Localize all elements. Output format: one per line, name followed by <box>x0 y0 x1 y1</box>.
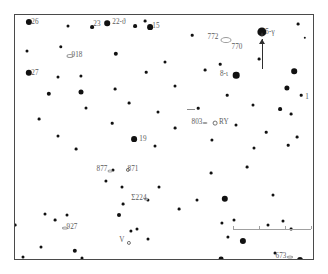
star-label: 19 <box>139 136 146 143</box>
star-marker <box>253 147 256 150</box>
star-marker <box>222 196 228 202</box>
star-marker <box>282 220 285 223</box>
deep-sky-object-marker <box>203 122 208 124</box>
star-marker <box>104 20 110 26</box>
star-label: 927 <box>66 224 77 231</box>
star-marker <box>136 228 139 231</box>
star-marker <box>252 104 255 107</box>
star-marker <box>233 219 236 222</box>
star-marker <box>26 50 29 53</box>
star-marker <box>57 135 60 138</box>
star-marker <box>147 238 150 241</box>
star-marker <box>265 131 268 134</box>
star-marker <box>111 122 114 125</box>
star-marker <box>85 107 88 110</box>
star-marker <box>290 113 293 116</box>
gamma-arrow-head <box>259 39 265 44</box>
star-marker <box>196 199 199 202</box>
star-marker <box>133 24 137 28</box>
star-marker <box>131 136 137 142</box>
star-marker <box>233 72 240 79</box>
star-marker <box>129 229 132 232</box>
star-marker <box>291 68 297 74</box>
star-marker <box>258 58 261 61</box>
star-chart: 262322-ϑ157727705-γ918278-ι1803RY1987787… <box>0 0 328 274</box>
star-marker <box>297 23 300 26</box>
star-marker <box>79 74 82 77</box>
star-label: 8-ι <box>220 71 228 78</box>
deep-sky-object-marker <box>221 37 232 43</box>
star-marker <box>54 219 57 222</box>
scale-bar-tick <box>285 226 286 229</box>
scale-bar-tick <box>311 226 312 229</box>
star-label: 772 <box>207 34 218 41</box>
star-marker <box>67 25 70 28</box>
star-label: 918 <box>71 52 82 59</box>
star-marker <box>191 34 194 37</box>
star-label: 770 <box>231 44 242 51</box>
star-marker <box>226 94 229 97</box>
star-marker <box>210 138 213 141</box>
star-marker <box>278 107 282 111</box>
scale-bar-tick <box>259 226 260 229</box>
star-label: 27 <box>31 70 38 77</box>
star-marker <box>219 257 224 260</box>
star-marker <box>157 111 160 114</box>
star-marker <box>284 85 289 90</box>
star-marker <box>220 221 223 224</box>
open-star-marker <box>127 241 131 245</box>
star-marker <box>38 118 41 121</box>
star-marker <box>59 45 62 48</box>
star-marker <box>144 20 147 23</box>
star-marker <box>287 144 290 147</box>
scale-bar-tick <box>233 226 234 229</box>
star-label: 877 <box>96 166 107 173</box>
star-marker <box>73 249 77 253</box>
star-marker <box>66 214 69 217</box>
star-label: 803 <box>191 119 202 126</box>
star-label: 22-ϑ <box>112 19 126 26</box>
star-label: 871 <box>127 166 138 173</box>
star-marker <box>178 208 181 211</box>
star-marker <box>164 61 167 64</box>
star-marker <box>117 213 121 217</box>
star-label: RY <box>219 119 229 126</box>
star-label: 5-γ <box>265 29 274 36</box>
star-marker <box>174 85 177 88</box>
star-marker <box>300 94 303 97</box>
star-marker <box>304 37 306 39</box>
open-star-marker <box>213 121 218 126</box>
star-marker <box>79 90 84 95</box>
star-marker <box>226 235 229 238</box>
star-marker <box>240 238 246 244</box>
star-marker <box>81 257 84 260</box>
star-marker <box>235 124 238 127</box>
star-marker <box>114 88 117 91</box>
star-marker <box>219 63 222 66</box>
star-label: Σ224 <box>131 195 146 202</box>
star-marker <box>297 257 303 260</box>
star-marker <box>122 203 125 206</box>
chart-field: 262322-ϑ157727705-γ918278-ι1803RY1987787… <box>14 14 314 260</box>
leader-line-803-to-ry <box>187 109 195 110</box>
star-marker <box>14 224 16 227</box>
scale-bar <box>233 229 311 230</box>
star-marker <box>57 76 60 79</box>
star-marker <box>296 136 299 139</box>
star-label: V <box>119 237 124 244</box>
star-marker <box>158 186 161 189</box>
deep-sky-object-marker <box>287 256 293 259</box>
star-marker <box>272 194 275 197</box>
star-label: 15 <box>152 23 159 30</box>
star-label: 23 <box>93 21 100 28</box>
star-marker <box>246 166 249 169</box>
star-label: 26 <box>31 19 38 26</box>
star-marker <box>128 102 131 105</box>
star-marker <box>210 172 213 175</box>
star-label: 1 <box>305 94 309 101</box>
star-marker <box>40 246 43 249</box>
star-marker <box>75 148 78 151</box>
star-label: 673 <box>275 253 286 260</box>
star-marker <box>114 52 118 56</box>
star-marker <box>145 71 148 74</box>
